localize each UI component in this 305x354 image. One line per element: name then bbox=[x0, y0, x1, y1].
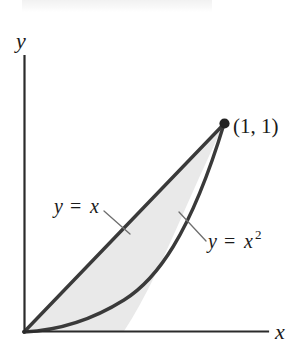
leader-line-y-equals-x bbox=[104, 211, 130, 234]
annotation-y-equals-x: y = x bbox=[52, 195, 99, 218]
annotation-y-equals-x-x: x bbox=[89, 195, 99, 217]
annotation-y-equals-x-squared-y: y bbox=[206, 230, 217, 253]
annotation-y-equals-x-equals: = bbox=[70, 195, 81, 217]
annotation-y-equals-x-squared: y = x 2 bbox=[206, 227, 262, 253]
point-marker-1-1 bbox=[219, 118, 229, 128]
point-label-1-1: (1, 1) bbox=[233, 114, 279, 138]
annotation-y-equals-x-y: y bbox=[52, 195, 63, 218]
y-axis-label: y bbox=[14, 28, 26, 53]
annotation-y-equals-x-squared-x: x bbox=[243, 230, 253, 252]
x-axis-label: x bbox=[274, 319, 285, 344]
math-figure-svg: y x (1, 1) y = x y = x 2 bbox=[0, 0, 305, 354]
annotation-y-equals-x-squared-equals: = bbox=[224, 230, 235, 252]
figure-container: y x (1, 1) y = x y = x 2 bbox=[0, 0, 305, 354]
annotation-y-equals-x-squared-exponent: 2 bbox=[255, 227, 262, 242]
